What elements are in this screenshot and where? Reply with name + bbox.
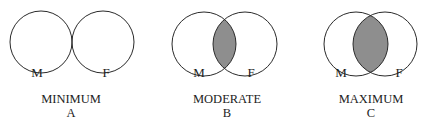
circle-f-a <box>72 11 134 73</box>
title-b: MODERATE <box>193 92 261 106</box>
label-f-c: F <box>395 65 402 80</box>
venn-diagram-b: M F MODERATE B <box>172 12 277 120</box>
venn-diagram-a: M F MINIMUM A <box>10 11 134 120</box>
label-m-a: M <box>31 65 43 80</box>
label-f-b: F <box>247 65 254 80</box>
title-c: MAXIMUM <box>339 92 404 106</box>
letter-b: B <box>223 106 231 120</box>
label-m-b: M <box>193 65 205 80</box>
label-m-c: M <box>335 65 347 80</box>
circle-m-a <box>10 11 72 73</box>
label-f-a: F <box>102 65 109 80</box>
letter-c: C <box>367 106 375 120</box>
venn-diagram-c: M F MAXIMUM C <box>324 12 417 120</box>
title-a: MINIMUM <box>41 92 101 106</box>
letter-a: A <box>66 106 75 120</box>
venn-diagram-figure: M F MINIMUM A M F MODERATE B M F MAXIMUM… <box>0 0 421 126</box>
